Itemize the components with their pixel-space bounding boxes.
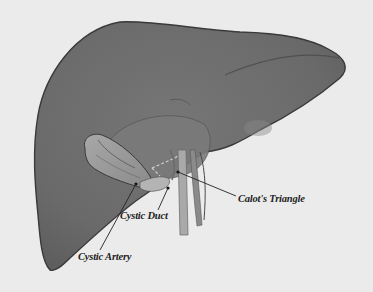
common-bile-duct — [178, 150, 188, 235]
liver-highlight — [244, 120, 272, 136]
label-calots-triangle: Calot's Triangle — [238, 193, 305, 204]
cystic-duct-pointer — [158, 188, 168, 210]
label-cystic-artery: Cystic Artery — [78, 251, 131, 262]
anatomy-figure: Cystic Duct Calot's Triangle Cystic Arte… — [0, 0, 373, 292]
liver-illustration — [0, 0, 373, 292]
label-cystic-duct: Cystic Duct — [120, 210, 168, 221]
